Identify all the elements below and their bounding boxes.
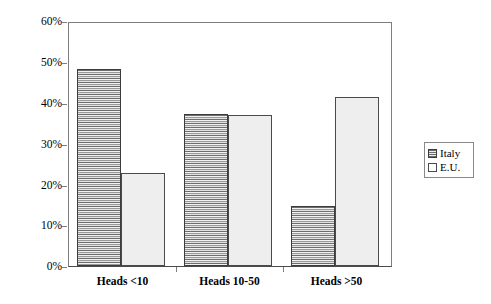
- bar-group-heads-gt-50: [283, 23, 390, 266]
- x-tick-mark-2: [283, 267, 284, 272]
- bar-eu-heads-lt-10: [121, 173, 165, 266]
- legend-item-italy: Italy: [428, 146, 469, 160]
- x-category-label-heads-lt-10: Heads <10: [69, 276, 176, 288]
- y-tick-label-10: 10%: [14, 220, 62, 232]
- legend-label-italy: Italy: [440, 148, 460, 159]
- bar-eu-heads-10-50: [228, 115, 272, 266]
- bar-italy-heads-10-50: [184, 114, 228, 266]
- y-tick-mark-60: [62, 22, 67, 23]
- bar-series-container: [69, 23, 391, 266]
- empty-swatch-icon: [428, 163, 437, 172]
- y-tick-mark-40: [62, 104, 67, 105]
- x-tick-mark-1: [176, 267, 177, 272]
- bar-group-heads-lt-10: [69, 23, 176, 266]
- y-tick-mark-0: [62, 267, 67, 268]
- y-tick-label-60: 60%: [14, 16, 62, 28]
- bar-italy-heads-gt-50: [291, 206, 335, 266]
- bar-chart: 60% 50% 40% 30% 20% 10% 0% Heads <10 Hea…: [0, 0, 491, 304]
- legend-label-eu: E.U.: [440, 162, 460, 173]
- y-axis: 60% 50% 40% 30% 20% 10% 0%: [8, 0, 62, 304]
- y-tick-label-20: 20%: [14, 180, 62, 192]
- bar-italy-heads-lt-10: [77, 69, 121, 266]
- x-category-label-heads-gt-50: Heads >50: [283, 276, 390, 288]
- y-tick-mark-50: [62, 63, 67, 64]
- y-tick-label-30: 30%: [14, 139, 62, 151]
- x-category-label-heads-10-50: Heads 10-50: [176, 276, 283, 288]
- y-tick-label-0: 0%: [14, 261, 62, 273]
- y-tick-mark-10: [62, 226, 67, 227]
- bar-group-heads-10-50: [176, 23, 283, 266]
- y-tick-mark-30: [62, 145, 67, 146]
- legend-item-eu: E.U.: [428, 160, 469, 174]
- bar-eu-heads-gt-50: [335, 97, 379, 266]
- y-tick-label-40: 40%: [14, 98, 62, 110]
- hatched-swatch-icon: [428, 149, 437, 158]
- legend: Italy E.U.: [424, 142, 474, 178]
- y-tick-mark-20: [62, 186, 67, 187]
- y-tick-label-50: 50%: [14, 57, 62, 69]
